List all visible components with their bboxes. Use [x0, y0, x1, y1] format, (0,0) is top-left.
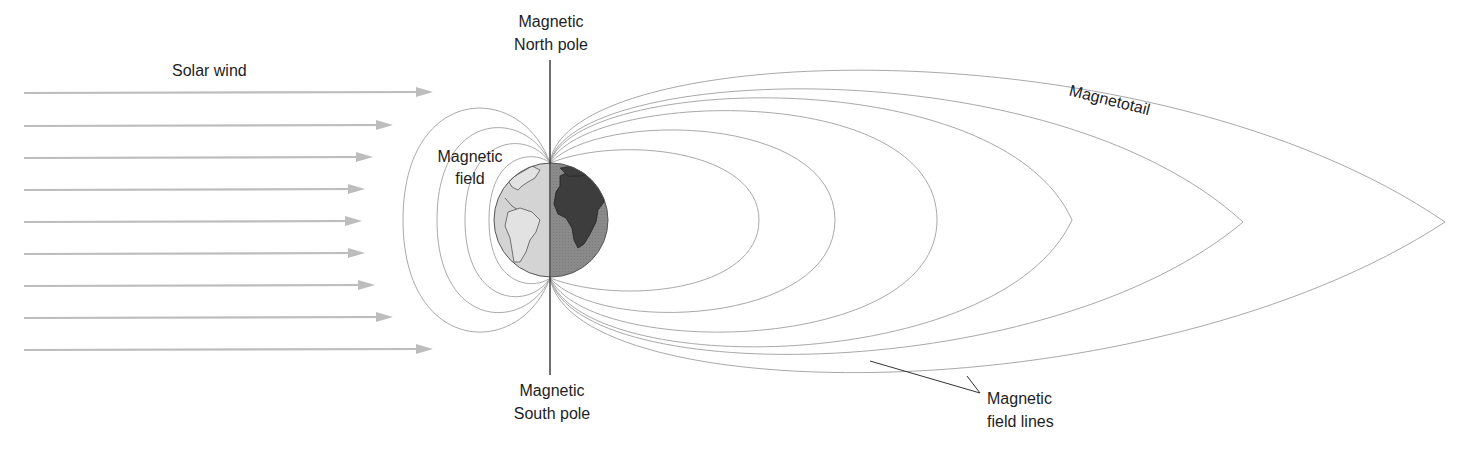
- solar-wind-arrow: [24, 120, 393, 130]
- magnetotail-label: Magnetotail: [1068, 82, 1152, 119]
- solar-wind-arrow: [24, 152, 373, 162]
- field-line: [550, 89, 1243, 355]
- solar-wind-arrow: [24, 248, 365, 258]
- solar-wind-arrows: [24, 87, 433, 354]
- magnetic-field-label-line2: field: [455, 170, 484, 187]
- north-pole-label-line2: North pole: [514, 36, 588, 53]
- solar-wind-arrow: [24, 87, 433, 97]
- solar-wind-arrow: [24, 216, 362, 226]
- solar-wind-arrow: [24, 184, 365, 194]
- field-line: [550, 70, 1445, 372]
- solar-wind-label: Solar wind: [172, 62, 247, 79]
- nightside-field-lines: [550, 70, 1445, 372]
- south-pole-label-line2: South pole: [514, 405, 591, 422]
- field-lines-label-line2: field lines: [987, 413, 1054, 430]
- magnetic-field-label-line1: Magnetic: [438, 148, 503, 165]
- field-lines-label-line1: Magnetic: [987, 390, 1052, 407]
- solar-wind-arrow: [24, 280, 375, 290]
- solar-wind-arrow: [24, 344, 433, 354]
- magnetosphere-diagram: Solar wind Magnetic North pole Magnetic …: [0, 0, 1461, 449]
- south-pole-label-line1: Magnetic: [520, 382, 585, 399]
- field-lines-pointer: [870, 361, 980, 393]
- north-pole-label-line1: Magnetic: [519, 13, 584, 30]
- solar-wind-arrow: [24, 312, 393, 322]
- earth-globe: [494, 163, 608, 277]
